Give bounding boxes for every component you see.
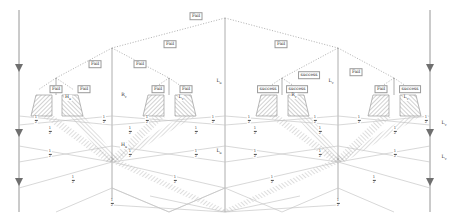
flow-bands bbox=[42, 116, 421, 212]
axis-left bbox=[15, 10, 23, 212]
axis-right bbox=[426, 10, 434, 212]
lattice-diagram-svg bbox=[0, 0, 449, 219]
leaf-boxes bbox=[31, 95, 421, 116]
figure-canvas: FailFailFailFailFailsuccessFailFailFailF… bbox=[0, 0, 449, 219]
tree-verticals bbox=[56, 18, 394, 212]
